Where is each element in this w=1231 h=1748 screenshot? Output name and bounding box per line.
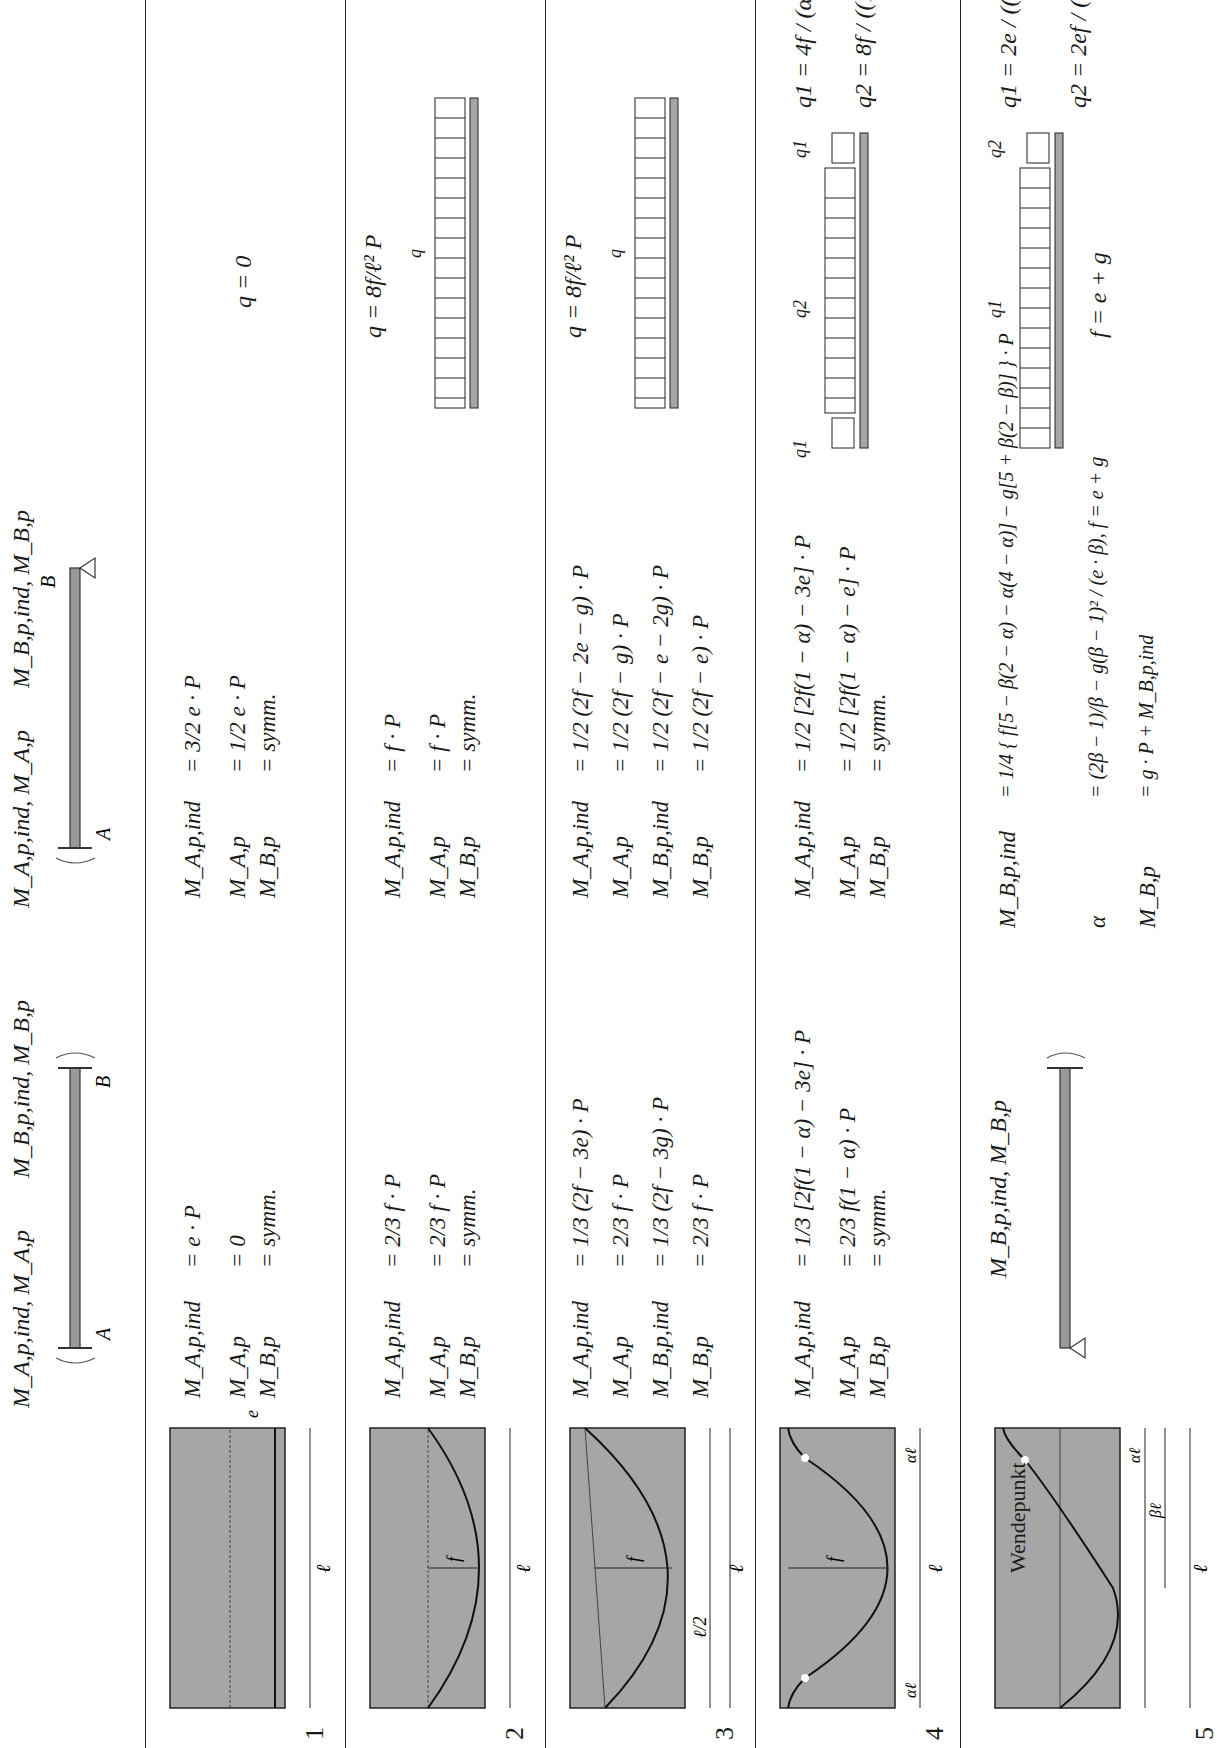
moment-rhs: = 2/3 f · P [380,1174,406,1268]
tendon-straight-diagram: ℓ e [160,1408,335,1718]
moment-rhs: = symm. [865,1189,891,1268]
moment-rhs: = 0 [225,1235,251,1268]
moment-lhs: M_A,p [225,836,251,898]
moment-lhs: M_A,p,ind [568,1301,594,1398]
moment-rhs: = symm. [865,694,891,773]
divider [755,0,756,1748]
svg-text:αℓ: αℓ [1126,1448,1143,1463]
moment-rhs: = f · P [380,714,406,773]
divider [145,0,146,1748]
svg-text:ℓ: ℓ [725,1564,745,1573]
moment-lhs: M_A,p,ind [790,801,816,898]
tendon-reverse-parabola-diagram: f αℓ αℓ ℓ [770,1408,950,1718]
fixed-fixed-label-left: M_A,p,ind, M_A,p [8,1230,35,1408]
svg-text:αℓ: αℓ [902,1683,919,1698]
moment-lhs: M_B,p [255,1336,281,1398]
moment-lhs: M_B,p [255,836,281,898]
moment-rhs: = symm. [455,1189,481,1268]
row-number: 3 [710,1727,740,1740]
moment-lhs: M_B,p,ind [648,1301,674,1398]
load-label-q2: q2 [985,140,1006,158]
moment-rhs: = symm. [255,1189,281,1268]
moment-rhs: = 1/2 (2f − 2e − g) · P [568,565,594,773]
moment-rhs: = symm. [255,694,281,773]
moment-lhs: M_B,p,ind [648,801,674,898]
moment-rhs: = f · P [425,714,451,773]
row-number: 1 [300,1727,330,1740]
rotated-table-page: A B M_A,p,ind, M_A,p M_B,p,ind, M_B,p A … [0,0,1231,1748]
moment-lhs: M_B,p [455,1336,481,1398]
svg-text:ℓ: ℓ [1189,1564,1211,1573]
propped-beam-icon: A B [20,528,130,888]
moment-rhs: = 1/2 (2f − e) · P [688,615,714,773]
svg-text:ℓ: ℓ [924,1564,946,1573]
svg-text:ℓ/2: ℓ/2 [690,1617,710,1639]
fixed-fixed-label-right: M_B,p,ind, M_B,p [8,1000,35,1178]
table-row-5: 5 αℓ βℓ ℓ Wendepunkt M_B,p,ind, M_B,p M_… [965,0,1225,1748]
moment-rhs: = 1/2 [2f(1 − α) − e] · P [835,546,861,773]
moment-lhs: α [1085,916,1111,928]
moment-rhs: = e · P [180,1205,206,1268]
svg-text:ℓ: ℓ [312,1564,334,1573]
svg-text:e: e [242,1410,262,1418]
partial-load-diagram [820,118,880,458]
moment-lhs: M_A,p [225,1336,251,1398]
load-label-q1: q1 [790,440,811,458]
moment-rhs: = symm. [455,694,481,773]
load-label: q [605,249,626,258]
load-formula-q1: q1 = 4f / (α · ℓ²) P [790,0,817,108]
moment-lhs: M_A,p,ind [380,1301,406,1398]
table-row-3: 3 f ℓ/2 ℓ M_A,p,ind = 1/3 (2f − 3e) · P … [550,0,750,1748]
moment-lhs: M_A,p,ind [180,1301,206,1398]
load-formula-q2: q2 = 2ef / ((2fβ − gβ² − f) · ℓ²) P [1065,0,1092,108]
load-formula-q1: q1 = 2e / ((1 − β)² · ℓ²) P [995,0,1022,108]
moment-lhs: M_B,p [865,836,891,898]
load-label: q [405,249,426,258]
moment-rhs: = 1/2 [2f(1 − α) − 3e] · P [790,535,816,773]
header-row: A B M_A,p,ind, M_A,p M_B,p,ind, M_B,p A … [0,0,140,1748]
moment-rhs: = 1/2 (2f − e − 2g) · P [648,565,674,773]
wendepunkt-label: Wendepunkt [1005,1462,1031,1573]
moment-rhs: = 3/2 e · P [180,675,206,773]
moment-lhs: M_A,p [608,836,634,898]
row-number: 5 [1190,1727,1220,1740]
moment-lhs: M_B,p [688,836,714,898]
row-number: 2 [500,1727,530,1740]
moment-rhs: = 2/3 f · P [688,1174,714,1268]
moment-lhs: M_A,p [425,836,451,898]
moment-lhs: M_A,p [835,836,861,898]
svg-text:A: A [92,1327,114,1342]
moment-lhs: M_B,p [455,836,481,898]
moment-lhs: M_A,p [835,1336,861,1398]
divider [345,0,346,1748]
moment-rhs: = 2/3 f · P [608,1174,634,1268]
load-label-q1: q1 [985,300,1006,318]
tendon-parabola-diagram: f ℓ [360,1408,535,1718]
table-row-4: 4 f αℓ αℓ ℓ M_A,p,ind = 1/3 [2f(1 − α) −… [760,0,955,1748]
moment-lhs: M_A,p [608,1336,634,1398]
row-number: 4 [920,1727,950,1740]
moment-lhs: M_B,p,ind [995,831,1021,928]
moment-lhs: M_A,p,ind [380,801,406,898]
load-label-q1: q1 [790,140,811,158]
load-formula-q2: q2 = 8f / ((1 − 2α) · ℓ²) P [850,0,877,108]
tendon-parabola-eccentric-diagram: f ℓ/2 ℓ [560,1408,745,1718]
moment-lhs: M_A,p,ind [790,1301,816,1398]
moment-lhs: M_A,p,ind [568,801,594,898]
load-formula: q = 0 [230,256,257,308]
moment-lhs: M_B,p [1135,866,1161,928]
table-row-2: 2 f ℓ M_A,p,ind = 2/3 f · P M_A,p = 2/3 … [350,0,540,1748]
load-formula: q = 8f/ℓ² P [560,235,587,338]
svg-text:A: A [92,827,114,842]
load-label-q2: q2 [790,300,811,318]
uniform-load-diagram [630,88,690,418]
moment-lhs: M_B,p [688,1336,714,1398]
table-row-1: 1 ℓ e M_A,p,ind = e · P M_A,p = 0 M_B,p … [150,0,340,1748]
load-formula: q = 8f/ℓ² P [360,235,387,338]
moment-rhs: = 1/3 (2f − 3e) · P [568,1098,594,1268]
propped-label-right: M_B,p,ind, M_B,p [8,510,35,688]
divider [960,0,961,1748]
load-note: f = e + g [1085,252,1112,338]
uniform-load-diagram [430,88,490,418]
two-part-load-diagram [1015,118,1075,458]
